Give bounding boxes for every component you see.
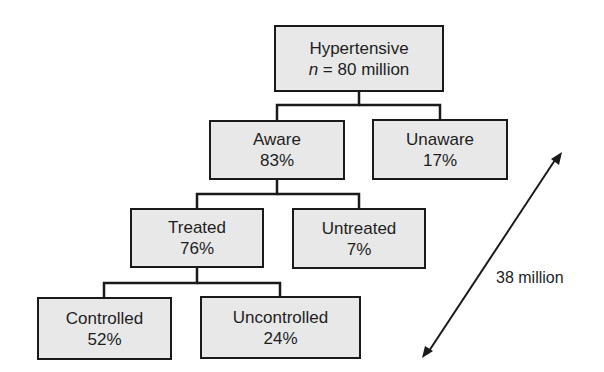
node-hypertensive: Hypertensive n = 80 million xyxy=(274,25,444,92)
node-untreated-value: 7% xyxy=(347,239,372,260)
node-uncontrolled-value: 24% xyxy=(263,328,297,349)
node-aware: Aware 83% xyxy=(209,120,345,180)
double-arrow-icon xyxy=(422,152,562,358)
node-unaware: Unaware 17% xyxy=(372,119,508,180)
node-aware-label: Aware xyxy=(253,129,301,150)
node-treated-label: Treated xyxy=(168,217,226,238)
hypertension-tree-diagram: Hypertensive n = 80 million Aware 83% Un… xyxy=(0,0,604,372)
node-uncontrolled-label: Uncontrolled xyxy=(233,307,328,328)
node-uncontrolled: Uncontrolled 24% xyxy=(200,296,361,359)
node-unaware-value: 17% xyxy=(423,150,457,171)
node-controlled-value: 52% xyxy=(87,329,121,350)
annotation-38-million: 38 million xyxy=(496,269,564,287)
node-controlled: Controlled 52% xyxy=(37,297,172,360)
node-untreated-label: Untreated xyxy=(322,218,397,239)
node-aware-value: 83% xyxy=(260,150,294,171)
node-untreated: Untreated 7% xyxy=(292,208,426,269)
node-controlled-label: Controlled xyxy=(66,308,144,329)
node-treated: Treated 76% xyxy=(130,208,264,268)
node-hypertensive-title: Hypertensive xyxy=(309,38,408,59)
node-hypertensive-count: n = 80 million xyxy=(309,59,410,80)
node-unaware-label: Unaware xyxy=(406,129,474,150)
node-treated-value: 76% xyxy=(180,238,214,259)
